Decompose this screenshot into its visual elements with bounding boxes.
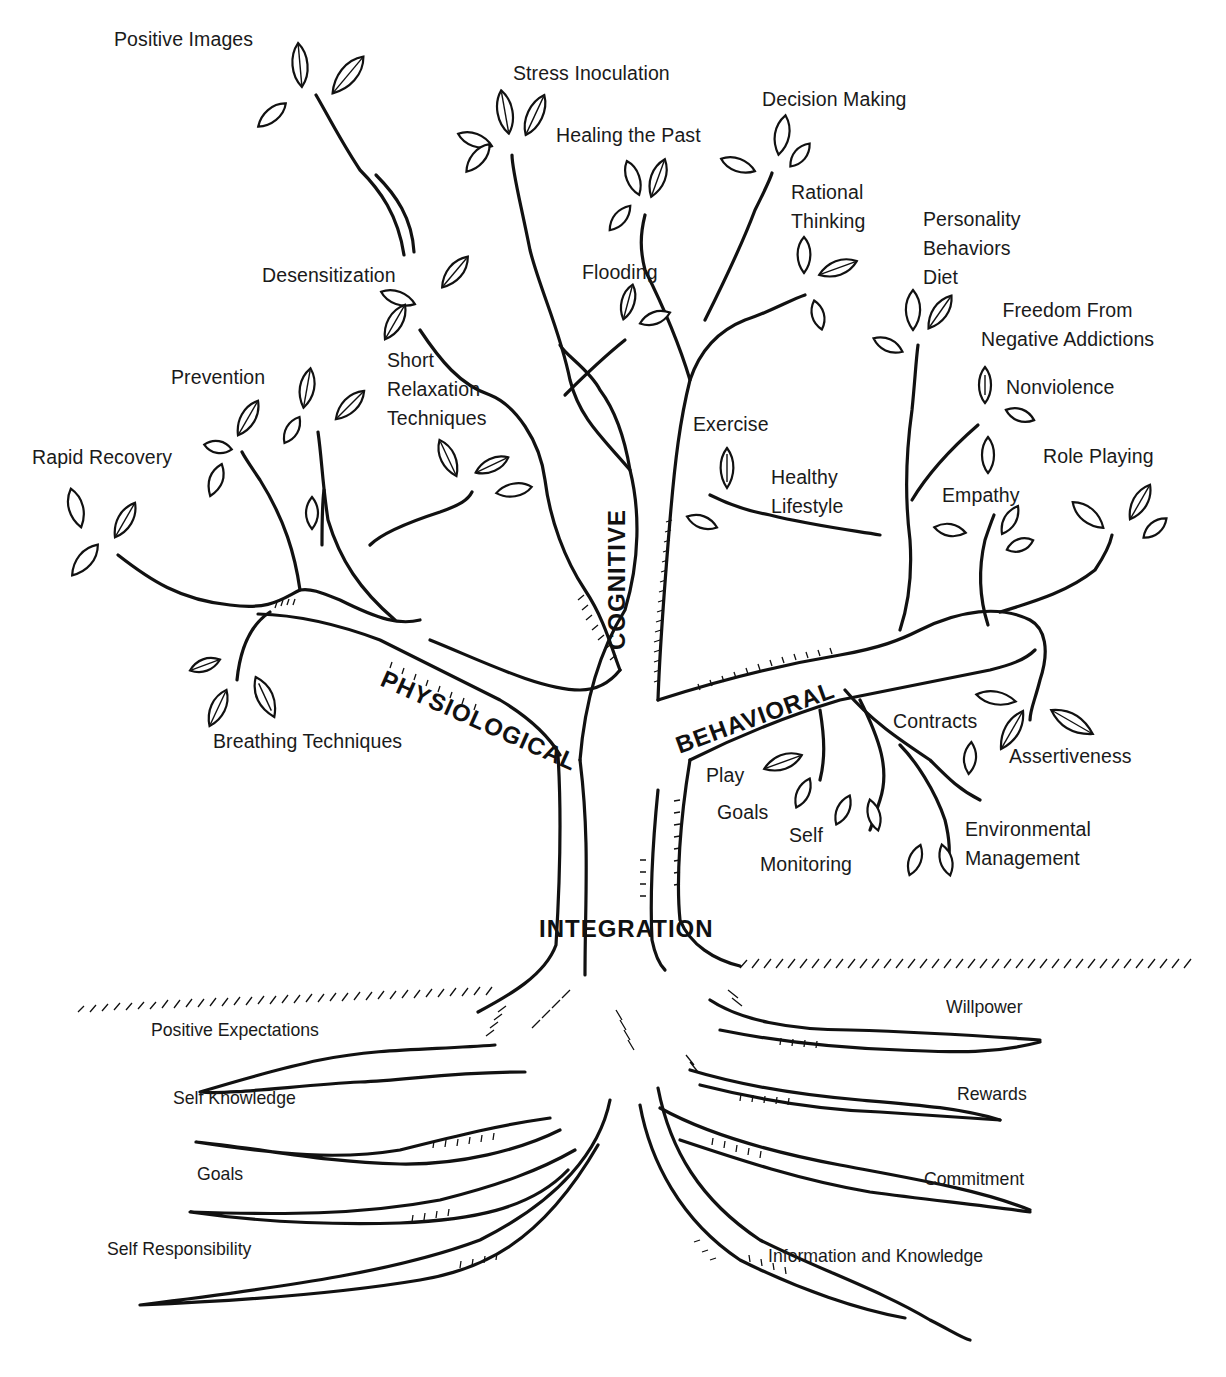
label-environmental-management: Environmental Management [965,815,1091,873]
label-rapid-recovery: Rapid Recovery [32,443,172,472]
label-role-playing: Role Playing [1043,442,1154,471]
root-label-self-responsibility: Self Responsibility [107,1238,251,1260]
label-rational-thinking: Rational Thinking [791,178,866,236]
roots [140,1000,1040,1340]
label-short-relaxation-techniques: Short Relaxation Techniques [387,346,487,433]
label-self-monitoring: Self Monitoring [760,821,852,879]
label-play: Play [706,761,744,790]
label-positive-images: Positive Images [114,25,253,54]
label-empathy: Empathy [942,481,1020,510]
label-exercise: Exercise [693,410,769,439]
root-label-rewards: Rewards [957,1083,1027,1105]
label-nonviolence: Nonviolence [1006,373,1114,402]
root-label-commitment: Commitment [924,1168,1024,1190]
label-contracts: Contracts [893,707,977,736]
label-healing-the-past: Healing the Past [556,121,701,150]
trunk [478,755,740,1012]
tree-illustration [0,0,1226,1377]
label-breathing-techniques: Breathing Techniques [213,727,402,756]
label-healthy-lifestyle: Healthy Lifestyle [771,463,843,521]
root-label-positive-expectations: Positive Expectations [151,1019,319,1041]
label-flooding: Flooding [582,258,658,287]
ground-hatching [78,959,1191,1012]
root-label-goals: Goals [197,1163,243,1185]
label-decision-making: Decision Making [762,85,907,114]
root-label-willpower: Willpower [946,996,1023,1018]
label-personality-behaviors-diet: Personality Behaviors Diet [923,205,1021,292]
root-label-information-and-knowledge: Information and Knowledge [768,1245,983,1267]
label-desensitization: Desensitization [262,261,396,290]
label-assertiveness: Assertiveness [1009,742,1132,771]
physiological-limb [118,95,620,755]
label-prevention: Prevention [171,363,265,392]
root-label-self-knowledge: Self Knowledge [173,1087,296,1109]
cognitive-limb [512,155,805,760]
label-freedom-from-negative-addictions: Freedom From Negative Addictions [981,296,1154,354]
category-cognitive: COGNITIVE [603,509,631,650]
category-integration: INTEGRATION [539,915,714,943]
label-stress-inoculation: Stress Inoculation [513,59,670,88]
